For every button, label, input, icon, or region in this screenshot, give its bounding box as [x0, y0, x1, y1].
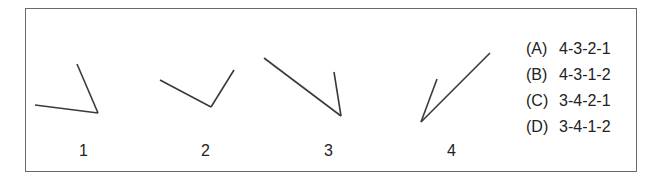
option-letter: (C): [526, 88, 559, 114]
figure-label-1: 1: [79, 142, 88, 160]
option-letter: (B): [526, 62, 559, 88]
option-value: 3-4-1-2: [559, 118, 611, 135]
option-letter: (D): [526, 114, 559, 140]
angle-2: [160, 70, 234, 107]
figure-label-3: 3: [324, 142, 333, 160]
option-a[interactable]: (A)4-3-2-1: [526, 36, 611, 62]
angle-4: [421, 53, 490, 122]
angle-1: [35, 64, 98, 113]
option-d[interactable]: (D)3-4-1-2: [526, 114, 611, 140]
figure-label-4: 4: [447, 142, 456, 160]
option-value: 3-4-2-1: [559, 92, 611, 109]
answer-options: (A)4-3-2-1 (B)4-3-1-2 (C)3-4-2-1 (D)3-4-…: [526, 36, 611, 140]
angle-3: [264, 58, 341, 116]
option-c[interactable]: (C)3-4-2-1: [526, 88, 611, 114]
figure-label-2: 2: [201, 142, 210, 160]
option-value: 4-3-2-1: [559, 40, 611, 57]
option-letter: (A): [526, 36, 559, 62]
option-value: 4-3-1-2: [559, 66, 611, 83]
option-b[interactable]: (B)4-3-1-2: [526, 62, 611, 88]
